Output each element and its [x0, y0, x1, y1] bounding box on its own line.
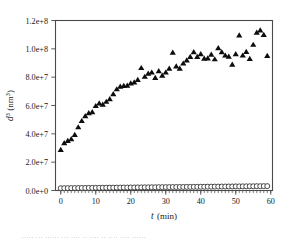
data-point-triangle — [72, 132, 78, 137]
x-tick-label: 30 — [162, 197, 170, 206]
data-point-circle — [265, 184, 270, 189]
data-point-triangle — [166, 65, 172, 70]
y-tick-label: 1.0e+8 — [25, 45, 48, 54]
x-tick-label: 20 — [127, 197, 135, 206]
data-point-triangle — [243, 49, 249, 54]
data-point-triangle — [236, 32, 242, 37]
data-point-triangle — [233, 51, 239, 56]
data-point-triangle — [261, 32, 267, 37]
x-tick-label: 0 — [59, 197, 63, 206]
y-axis-title: d3(nm3) — [4, 90, 15, 121]
data-point-triangle — [264, 53, 270, 58]
d3-filled-triangles-series — [58, 27, 271, 152]
y-tick-label: 4.0e+7 — [25, 130, 48, 139]
data-point-triangle — [191, 49, 197, 54]
y-tick-label: 2.0e+7 — [25, 158, 48, 167]
data-point-triangle — [135, 77, 141, 82]
data-point-triangle — [170, 50, 176, 55]
x-tick-label: 50 — [232, 197, 240, 206]
x-tick-label: 40 — [197, 197, 205, 206]
data-point-triangle — [198, 51, 204, 56]
data-point-triangle — [229, 62, 235, 67]
baseline-open-circles-series — [58, 184, 270, 191]
data-point-triangle — [212, 56, 218, 61]
data-point-triangle — [110, 91, 116, 96]
data-point-triangle — [250, 42, 256, 47]
data-point-triangle — [138, 65, 144, 70]
plot-frame — [56, 21, 273, 191]
y-tick-label: 0.0e+0 — [25, 187, 48, 196]
data-point-triangle — [58, 147, 64, 152]
y-axis-ticks — [51, 21, 55, 191]
scatter-plot: 0102030405060 0.0e+02.0e+74.0e+76.0e+78.… — [0, 0, 286, 243]
x-tick-label: 10 — [92, 197, 100, 206]
x-axis-title-text: t(min) — [151, 211, 177, 221]
data-point-triangle — [187, 54, 193, 59]
x-tick-label: 60 — [267, 197, 275, 206]
data-point-triangle — [149, 69, 155, 74]
data-point-triangle — [156, 68, 162, 73]
figure-caption-blurred: ∙∙∙∙∙ ∙∙∙ ∙∙∙∙∙∙ ∙∙∙ ∙∙∙∙ ∙∙ ∙∙∙∙ ∙∙ ∙∙∙… — [22, 233, 274, 241]
y-axis-title-text: d3(nm3) — [4, 90, 15, 121]
y-tick-label: 1.2e+8 — [25, 17, 48, 26]
y-axis-tick-labels: 0.0e+02.0e+74.0e+76.0e+78.0e+71.0e+81.2e… — [25, 17, 48, 196]
data-point-triangle — [107, 96, 113, 101]
data-point-triangle — [208, 52, 214, 57]
data-point-triangle — [79, 118, 85, 123]
data-point-triangle — [152, 75, 158, 80]
data-point-triangle — [75, 124, 81, 129]
figure-container: 0102030405060 0.0e+02.0e+74.0e+76.0e+78.… — [0, 0, 286, 243]
data-point-triangle — [215, 45, 221, 50]
x-axis-ticks — [61, 191, 271, 195]
x-axis-tick-labels: 0102030405060 — [59, 197, 275, 206]
x-axis-title: t(min) — [151, 211, 177, 221]
data-point-triangle — [257, 27, 263, 32]
y-tick-label: 8.0e+7 — [25, 73, 48, 82]
y-tick-label: 6.0e+7 — [25, 102, 48, 111]
data-point-triangle — [247, 56, 253, 61]
data-point-triangle — [173, 63, 179, 68]
data-point-triangle — [89, 109, 95, 114]
